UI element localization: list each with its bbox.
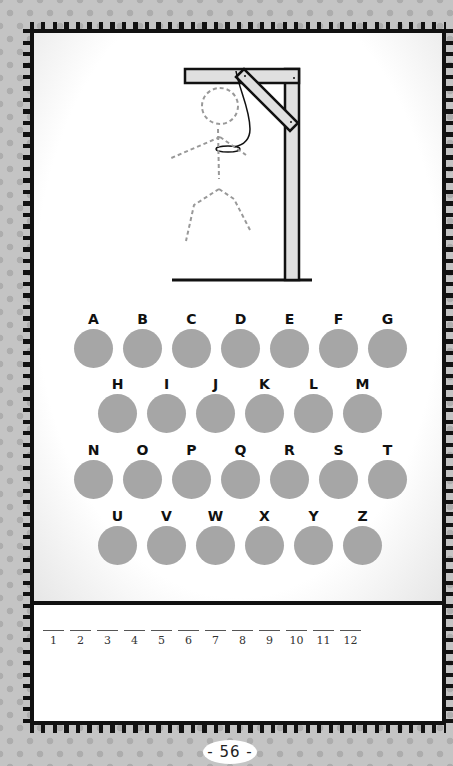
letter-circle[interactable] — [294, 394, 333, 433]
letter-label: A — [88, 310, 99, 328]
letter-circle[interactable] — [368, 329, 407, 368]
frame-right-edge — [445, 29, 453, 725]
letter-i[interactable]: I — [142, 375, 191, 433]
letter-f[interactable]: F — [314, 310, 363, 368]
letter-v[interactable]: V — [142, 507, 191, 565]
slot-number: 11 — [317, 634, 331, 647]
letter-circle[interactable] — [123, 329, 162, 368]
letter-p[interactable]: P — [167, 441, 216, 499]
letter-label: O — [137, 441, 149, 459]
letter-label: T — [383, 441, 393, 459]
letter-circle[interactable] — [147, 526, 186, 565]
answer-slot[interactable]: 5 — [148, 630, 175, 647]
letter-label: N — [88, 441, 100, 459]
letter-label: H — [112, 375, 124, 393]
letter-label: G — [382, 310, 394, 328]
gallows-icon — [164, 59, 334, 289]
slot-number: 8 — [239, 634, 246, 647]
slot-number: 4 — [131, 634, 138, 647]
letter-label: F — [334, 310, 344, 328]
letter-circle[interactable] — [221, 329, 260, 368]
letter-label: W — [208, 507, 223, 525]
letter-circle[interactable] — [98, 394, 137, 433]
letter-circle[interactable] — [123, 460, 162, 499]
answer-slot[interactable]: 7 — [202, 630, 229, 647]
slot-number: 5 — [158, 634, 165, 647]
answer-blanks: 1 2 3 4 5 6 7 8 9 10 11 12 — [40, 630, 364, 647]
letter-circle[interactable] — [319, 329, 358, 368]
letter-label: M — [356, 375, 370, 393]
letter-l[interactable]: L — [289, 375, 338, 433]
letter-circle[interactable] — [196, 526, 235, 565]
letter-circle[interactable] — [368, 460, 407, 499]
letter-row-3: N O P Q R S T — [69, 441, 412, 499]
letter-circle[interactable] — [172, 329, 211, 368]
letter-circle[interactable] — [245, 526, 284, 565]
answer-slot[interactable]: 11 — [310, 630, 337, 647]
letter-h[interactable]: H — [93, 375, 142, 433]
letter-label: U — [112, 507, 123, 525]
letter-w[interactable]: W — [191, 507, 240, 565]
answer-slot[interactable]: 12 — [337, 630, 364, 647]
answer-slot[interactable]: 1 — [40, 630, 67, 647]
letter-s[interactable]: S — [314, 441, 363, 499]
letter-row-1: A B C D E F G — [69, 310, 412, 368]
letter-n[interactable]: N — [69, 441, 118, 499]
letter-circle[interactable] — [270, 460, 309, 499]
letter-label: P — [186, 441, 196, 459]
slot-number: 1 — [50, 634, 57, 647]
slot-number: 12 — [344, 634, 358, 647]
letter-circle[interactable] — [221, 460, 260, 499]
answer-slot[interactable]: 2 — [67, 630, 94, 647]
letter-r[interactable]: R — [265, 441, 314, 499]
slot-number: 7 — [212, 634, 219, 647]
letter-circle[interactable] — [343, 394, 382, 433]
letter-label: Z — [357, 507, 367, 525]
letter-label: L — [309, 375, 318, 393]
letter-label: E — [285, 310, 295, 328]
letter-circle[interactable] — [270, 329, 309, 368]
letter-row-2: H I J K L M — [93, 375, 387, 433]
letter-m[interactable]: M — [338, 375, 387, 433]
letter-circle[interactable] — [196, 394, 235, 433]
answer-slot[interactable]: 3 — [94, 630, 121, 647]
answer-slot[interactable]: 10 — [283, 630, 310, 647]
letter-u[interactable]: U — [93, 507, 142, 565]
answer-slot[interactable]: 6 — [175, 630, 202, 647]
letter-x[interactable]: X — [240, 507, 289, 565]
letter-q[interactable]: Q — [216, 441, 265, 499]
letter-circle[interactable] — [319, 460, 358, 499]
letter-g[interactable]: G — [363, 310, 412, 368]
letter-t[interactable]: T — [363, 441, 412, 499]
letter-o[interactable]: O — [118, 441, 167, 499]
frame-bottom-edge — [30, 725, 446, 733]
letter-b[interactable]: B — [118, 310, 167, 368]
section-divider — [34, 601, 442, 605]
letter-label: B — [137, 310, 148, 328]
letter-circle[interactable] — [74, 329, 113, 368]
slot-number: 3 — [104, 634, 111, 647]
answer-slot[interactable]: 9 — [256, 630, 283, 647]
letter-label: Y — [308, 507, 318, 525]
letter-z[interactable]: Z — [338, 507, 387, 565]
letter-j[interactable]: J — [191, 375, 240, 433]
letter-circle[interactable] — [294, 526, 333, 565]
letter-label: V — [161, 507, 172, 525]
letter-label: I — [164, 375, 169, 393]
letter-d[interactable]: D — [216, 310, 265, 368]
slot-number: 6 — [185, 634, 192, 647]
letter-circle[interactable] — [343, 526, 382, 565]
answer-slot[interactable]: 8 — [229, 630, 256, 647]
answer-slot[interactable]: 4 — [121, 630, 148, 647]
letter-circle[interactable] — [74, 460, 113, 499]
letter-circle[interactable] — [147, 394, 186, 433]
letter-k[interactable]: K — [240, 375, 289, 433]
letter-e[interactable]: E — [265, 310, 314, 368]
letter-c[interactable]: C — [167, 310, 216, 368]
letter-a[interactable]: A — [69, 310, 118, 368]
letter-circle[interactable] — [245, 394, 284, 433]
slot-number: 2 — [77, 634, 84, 647]
letter-circle[interactable] — [172, 460, 211, 499]
letter-y[interactable]: Y — [289, 507, 338, 565]
letter-circle[interactable] — [98, 526, 137, 565]
